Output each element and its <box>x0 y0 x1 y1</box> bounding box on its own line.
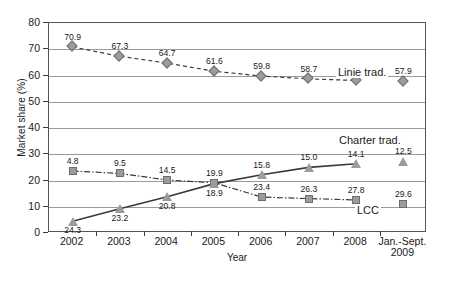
data-point-label: 29.6 <box>388 190 418 199</box>
y-tick-label: 20 <box>14 175 40 185</box>
data-point-label: 67.3 <box>105 42 135 51</box>
data-point-label: 9.5 <box>105 159 135 168</box>
series-annotation-linie-trad: Linie trad. <box>336 66 388 78</box>
data-point-label: 15.0 <box>294 153 324 162</box>
data-point-label: 70.9 <box>58 33 88 42</box>
data-point-label: 4.8 <box>58 157 88 166</box>
data-point-label: 19.9 <box>199 169 229 178</box>
data-point-label: 12.5 <box>388 147 418 156</box>
y-tick-label: 50 <box>14 96 40 106</box>
series-annotation-charter-trad: Charter trad. <box>337 134 403 146</box>
data-point-label: 20.8 <box>152 202 182 211</box>
y-tick-label: 80 <box>14 17 40 27</box>
data-point-label: 14.5 <box>152 166 182 175</box>
data-point-label: 59.8 <box>247 62 277 71</box>
x-tick-label-line1: 2007 <box>296 235 319 247</box>
x-tick-label-line1: 2008 <box>343 235 366 247</box>
data-point-label: 23.4 <box>247 183 277 192</box>
series-lines <box>49 23 427 233</box>
data-point-label: 64.7 <box>152 49 182 58</box>
series-annotation-lcc: LCC <box>355 204 381 216</box>
data-point-label: 24.3 <box>58 226 88 235</box>
y-tick-label: 10 <box>14 201 40 211</box>
data-point-label: 27.8 <box>341 186 371 195</box>
x-tick-label-line1: 2004 <box>154 235 177 247</box>
data-point-label: 23.2 <box>105 214 135 223</box>
y-tick-label: 0 <box>14 227 40 237</box>
data-point-label: 57.9 <box>388 67 418 76</box>
data-point-label: 61.6 <box>199 57 229 66</box>
data-point-label: 14.1 <box>341 150 371 159</box>
data-point-label: 15.8 <box>247 161 277 170</box>
x-axis-title: Year <box>48 252 426 263</box>
plot-area: 70.967.364.761.659.858.758.157.94.89.514… <box>48 22 426 232</box>
y-tick-label: 40 <box>14 122 40 132</box>
y-tick-label: 30 <box>14 148 40 158</box>
chart-container: Market share (%) 01020304050607080 70.96… <box>0 0 451 282</box>
x-tick-label-line1: 2002 <box>60 235 83 247</box>
y-tick-label: 60 <box>14 70 40 80</box>
data-point-label: 58.7 <box>294 65 324 74</box>
x-tick-label-line1: 2006 <box>249 235 272 247</box>
y-tick-label: 70 <box>14 43 40 53</box>
x-tick-label-line1: 2003 <box>107 235 130 247</box>
x-tick-label-line1: 2005 <box>202 235 225 247</box>
data-point-label: 26.3 <box>294 185 324 194</box>
data-point-label: 18.9 <box>199 189 229 198</box>
y-tick-mark <box>43 232 48 233</box>
